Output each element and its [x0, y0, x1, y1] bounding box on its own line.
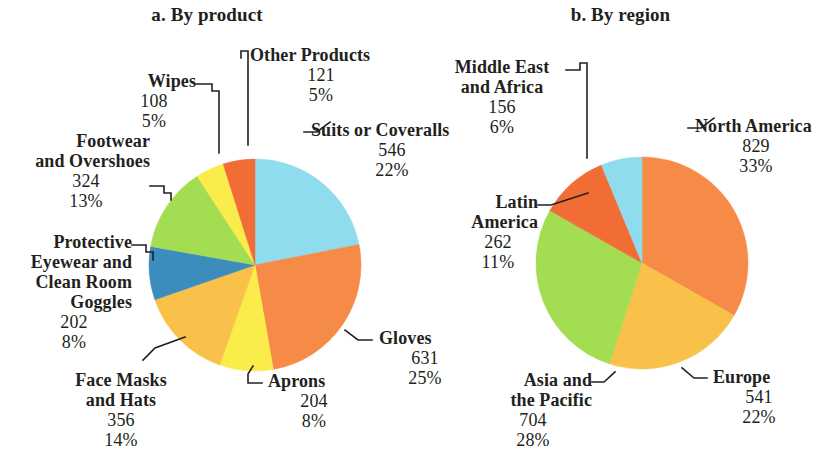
callout-other-products-value: 121	[250, 65, 410, 85]
callout-europe: Europe 541 22%	[713, 367, 823, 427]
callout-face-masks-and-hats-percent: 14%	[48, 430, 194, 450]
callout-wipes-value: 108	[96, 91, 196, 111]
callout-north-america-percent: 33%	[695, 156, 827, 176]
panel-title-by-product: a. By product	[0, 4, 414, 26]
panel-title-by-region: b. By region	[414, 4, 827, 26]
callout-middle-east-and-africa: Middle East and Africa 156 6%	[438, 57, 566, 137]
callout-asia-and-the-pacific-name: Asia and the Pacific	[510, 370, 592, 410]
callout-suits-or-coveralls-percent: 22%	[311, 160, 491, 180]
callout-north-america-value: 829	[695, 136, 827, 156]
callout-footwear-and-overshoes: Footwear and Overshoes 324 13%	[6, 131, 150, 211]
callout-face-masks-and-hats-name: Face Masks and Hats	[75, 370, 166, 410]
callout-protective-eyewear-value: 202	[0, 312, 132, 332]
callout-aprons-name: Aprons	[268, 371, 325, 391]
callout-aprons-value: 204	[268, 391, 378, 411]
callout-face-masks-and-hats: Face Masks and Hats 356 14%	[48, 370, 194, 450]
callout-face-masks-and-hats-value: 356	[48, 410, 194, 430]
callout-other-products-percent: 5%	[250, 85, 410, 105]
callout-other-products: Other Products 121 5%	[250, 45, 410, 105]
callout-north-america-name: North America	[695, 116, 812, 136]
callout-middle-east-and-africa-value: 156	[438, 97, 566, 117]
callout-europe-name: Europe	[713, 367, 770, 387]
callout-europe-percent: 22%	[713, 407, 823, 427]
callout-latin-america-name: Latin America	[471, 192, 538, 232]
callout-footwear-and-overshoes-name: Footwear and Overshoes	[35, 131, 150, 171]
callout-asia-and-the-pacific-percent: 28%	[458, 430, 592, 450]
callout-asia-and-the-pacific: Asia and the Pacific 704 28%	[458, 370, 592, 450]
callout-wipes: Wipes 108 5%	[96, 71, 196, 131]
callout-protective-eyewear-name: Protective Eyewear and Clean Room Goggle…	[31, 232, 132, 312]
callout-gloves-name: Gloves	[379, 328, 432, 348]
callout-aprons-percent: 8%	[268, 411, 378, 431]
callout-middle-east-and-africa-name: Middle East and Africa	[455, 57, 550, 97]
callout-suits-or-coveralls-value: 546	[311, 140, 491, 160]
callout-europe-value: 541	[713, 387, 823, 407]
callout-wipes-percent: 5%	[96, 111, 196, 131]
callout-north-america: North America 829 33%	[695, 116, 827, 176]
callout-protective-eyewear: Protective Eyewear and Clean Room Goggle…	[0, 232, 132, 352]
callout-latin-america-value: 262	[442, 232, 538, 252]
callout-gloves-value: 631	[379, 348, 489, 368]
callout-other-products-name: Other Products	[250, 45, 370, 65]
callout-protective-eyewear-percent: 8%	[0, 332, 132, 352]
callout-aprons: Aprons 204 8%	[268, 371, 378, 431]
callout-footwear-and-overshoes-percent: 13%	[6, 191, 150, 211]
callout-middle-east-and-africa-percent: 6%	[438, 117, 566, 137]
callout-latin-america: Latin America 262 11%	[442, 192, 538, 272]
callout-wipes-name: Wipes	[148, 71, 196, 91]
callout-asia-and-the-pacific-value: 704	[458, 410, 592, 430]
callout-suits-or-coveralls-name: Suits or Coveralls	[311, 120, 449, 140]
callout-latin-america-percent: 11%	[442, 252, 538, 272]
callout-footwear-and-overshoes-value: 324	[6, 171, 150, 191]
